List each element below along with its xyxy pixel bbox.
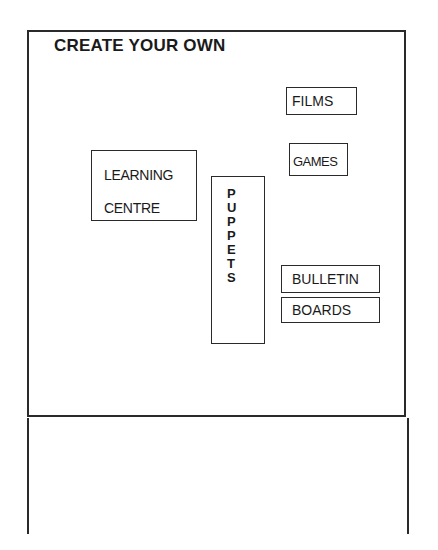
letter: U [227, 201, 236, 215]
page-title: CREATE YOUR OWN [54, 36, 225, 56]
learning-label: LEARNING [104, 159, 196, 192]
puppets-vertical-label: P U P P E T S [227, 187, 236, 285]
boards-box: BOARDS [281, 297, 380, 323]
lower-panel-frame [27, 418, 409, 534]
letter: P [227, 187, 236, 201]
letter: T [227, 257, 236, 271]
letter: E [227, 243, 236, 257]
games-box: GAMES [289, 143, 348, 176]
centre-label: CENTRE [104, 192, 196, 225]
letter: P [227, 229, 236, 243]
films-box: FILMS [286, 87, 357, 115]
puppets-box: P U P P E T S [211, 176, 265, 344]
learning-centre-box: LEARNING CENTRE [91, 150, 197, 221]
letter: S [227, 271, 236, 285]
bulletin-box: BULLETIN [281, 265, 380, 293]
letter: P [227, 215, 236, 229]
